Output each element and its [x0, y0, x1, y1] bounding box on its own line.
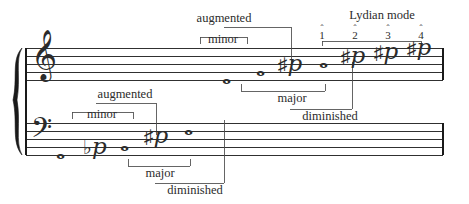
bass-note-5: 𝅝 [184, 116, 193, 139]
treble-note-2: 𝅝 [256, 57, 265, 80]
bracket-major-bass [128, 159, 190, 166]
label-augmented-treble: augmented [197, 12, 252, 25]
grand-staff-brace [13, 48, 22, 155]
flat-icon: ♭ [83, 137, 92, 158]
treble-note-3-sharp: ♯𝑝 [278, 52, 302, 75]
scale-degree-1: ˆ 1 [315, 24, 329, 41]
scale-degree-4: ˆ 4 [414, 24, 428, 41]
bass-note-4-sharp: ♯𝑝 [144, 124, 168, 147]
bass-note-1: 𝅝 [56, 140, 65, 163]
label-minor-bass: minor [87, 108, 117, 121]
treble-note-4: 𝅝 [319, 49, 328, 72]
treble-note-5-sharp: ♯𝑝 [341, 44, 365, 67]
scale-degree-2: ˆ 2 [348, 24, 362, 41]
sharp-icon: ♯ [341, 46, 351, 67]
label-minor-treble: minor [208, 33, 238, 46]
bass-note-2-flat: ♭𝑝 [83, 135, 107, 158]
bracket-major-treble [241, 84, 325, 91]
label-augmented-bass: augmented [98, 88, 153, 101]
notation-canvas [0, 0, 469, 204]
bass-note-3: 𝅝 [120, 132, 129, 155]
label-diminished-bass: diminished [167, 184, 223, 197]
sharp-icon: ♯ [407, 38, 417, 59]
bass-clef-icon: 𝄢 [31, 115, 52, 148]
label-lydian-mode: Lydian mode [349, 9, 415, 22]
music-figure: 𝄞 𝄢 𝅝 𝅝 ♯𝑝 𝅝 ♯𝑝 ♯𝑝 ♯𝑝 𝅝 ♭𝑝 𝅝 ♯𝑝 𝅝 augmen… [0, 0, 469, 204]
sharp-icon: ♯ [144, 126, 154, 147]
sharp-icon: ♯ [278, 54, 288, 75]
label-major-treble: major [277, 92, 306, 105]
treble-clef-icon: 𝄞 [31, 33, 57, 77]
treble-note-6-sharp: ♯𝑝 [374, 40, 398, 63]
treble-note-1: 𝅝 [222, 65, 231, 88]
scale-degree-3: ˆ 3 [381, 24, 395, 41]
label-diminished-treble: diminished [302, 110, 358, 123]
sharp-icon: ♯ [374, 42, 384, 63]
label-major-bass: major [145, 167, 174, 180]
